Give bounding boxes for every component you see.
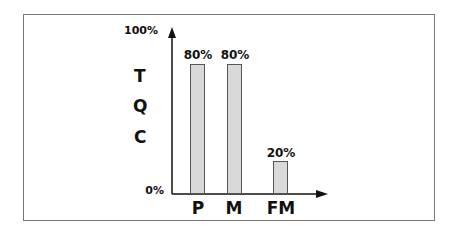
category-fm: FM — [261, 198, 301, 218]
category-m: M — [214, 198, 254, 218]
x-axis-arrow-icon — [316, 190, 328, 198]
category-p: P — [178, 198, 218, 218]
y-axis-arrow-icon — [168, 27, 176, 38]
value-label-p: 80% — [178, 48, 218, 62]
ytick-100: 100% — [108, 24, 158, 37]
value-label-fm: 20% — [261, 146, 301, 160]
ytick-0: 0% — [114, 184, 164, 197]
bar-fm — [273, 161, 288, 194]
ylabel-q: Q — [133, 96, 147, 116]
value-label-m: 80% — [215, 48, 255, 62]
bar-p — [190, 64, 205, 194]
ylabel-c: C — [134, 127, 146, 147]
bar-m — [227, 64, 242, 194]
ylabel-t: T — [134, 66, 146, 86]
